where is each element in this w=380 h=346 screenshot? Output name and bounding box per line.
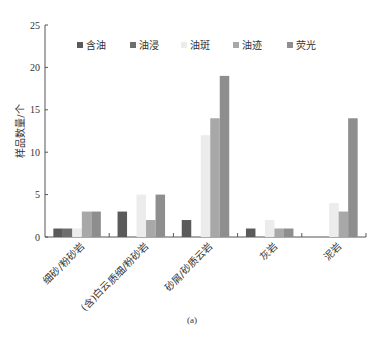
x-axis: 细砂/粉砂岩(含)白云质细/粉砂岩砂屑/砂质云岩灰岩泥岩 xyxy=(40,233,366,313)
legend-label: 油浸 xyxy=(139,39,159,51)
legend-label: 油迹 xyxy=(242,39,262,51)
bar xyxy=(53,229,63,237)
figure-caption: (a) xyxy=(187,315,197,325)
y-tick-label: 15 xyxy=(30,104,40,115)
legend-swatch xyxy=(233,42,239,48)
legend-swatch xyxy=(181,42,187,48)
category-label: 砂屑/砂质云岩 xyxy=(162,240,215,293)
y-axis: 0510152025 xyxy=(30,20,48,243)
bar xyxy=(284,229,294,237)
bar xyxy=(246,229,256,237)
bar xyxy=(82,212,92,237)
y-tick-label: 20 xyxy=(30,62,40,73)
category-label: 细砂/粉砂岩 xyxy=(40,240,86,286)
bar xyxy=(348,118,358,237)
legend-swatch xyxy=(77,42,83,48)
category-label: 灰岩 xyxy=(256,240,279,263)
y-tick-label: 25 xyxy=(30,20,40,31)
bar xyxy=(339,212,349,237)
y-tick-label: 0 xyxy=(35,232,40,243)
bar-series xyxy=(53,76,357,237)
legend-swatch xyxy=(287,42,293,48)
bar xyxy=(118,212,128,237)
bar xyxy=(201,135,211,237)
bar xyxy=(72,229,82,237)
y-tick-label: 10 xyxy=(30,147,40,158)
bar xyxy=(210,118,220,237)
bar xyxy=(274,229,284,237)
legend-swatch xyxy=(130,42,136,48)
y-tick-label: 5 xyxy=(35,189,40,200)
legend-label: 油斑 xyxy=(190,39,210,51)
legend-label: 含油 xyxy=(86,39,106,51)
category-label: (含)白云质细/粉砂岩 xyxy=(78,240,151,313)
bar xyxy=(137,195,147,237)
bar xyxy=(265,220,275,237)
bar xyxy=(329,203,339,237)
bar xyxy=(156,195,166,237)
legend: 含油油浸油斑油迹荧光 xyxy=(77,39,316,51)
bar-chart: 0510152025 细砂/粉砂岩(含)白云质细/粉砂岩砂屑/砂质云岩灰岩泥岩 … xyxy=(0,0,380,346)
bar xyxy=(182,220,192,237)
y-axis-title: 样品数量/个 xyxy=(14,104,26,157)
bar xyxy=(91,212,101,237)
bar xyxy=(63,229,73,237)
bar xyxy=(146,220,156,237)
category-label: 泥岩 xyxy=(321,240,344,263)
bar xyxy=(220,76,230,237)
legend-label: 荧光 xyxy=(296,39,316,51)
